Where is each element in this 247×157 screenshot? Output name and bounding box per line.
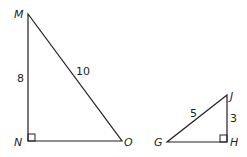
vertex-label-h: H — [230, 136, 238, 149]
right-angle-marker-n — [28, 134, 35, 141]
side-label-jh: 3 — [230, 112, 237, 125]
triangle-mno-shape — [28, 14, 122, 141]
side-label-mo: 10 — [76, 65, 90, 78]
triangle-gjh: G H J 5 3 — [154, 90, 238, 149]
vertex-label-m: M — [14, 8, 24, 21]
triangle-gjh-shape — [167, 95, 227, 142]
side-label-gj: 5 — [190, 107, 197, 120]
vertex-label-g: G — [154, 136, 163, 149]
vertex-label-n: N — [14, 136, 22, 149]
side-label-mn: 8 — [17, 72, 24, 85]
triangle-mno: M N O 8 10 — [14, 8, 133, 149]
vertex-label-o: O — [124, 136, 133, 149]
vertex-label-j: J — [228, 90, 233, 103]
right-angle-marker-h — [220, 135, 227, 142]
similar-triangles-diagram: M N O 8 10 G H J 5 3 — [0, 0, 247, 157]
